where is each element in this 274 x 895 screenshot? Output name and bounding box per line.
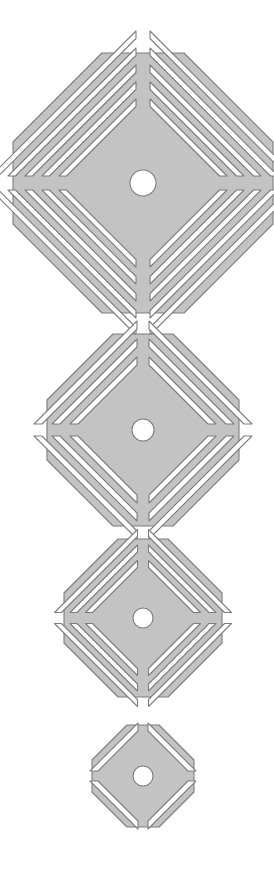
grate-small — [90, 723, 196, 829]
grate-medium — [55, 530, 232, 707]
grate-extra-large-center-hole — [130, 170, 156, 196]
grate-illustration-canvas — [0, 0, 274, 895]
grate-large — [34, 321, 252, 539]
grate-small-center-hole — [133, 766, 153, 786]
grate-medium-center-hole — [133, 608, 153, 628]
grate-extra-large — [0, 31, 274, 335]
grate-large-center-hole — [132, 419, 154, 441]
illustration-stage — [0, 0, 274, 895]
